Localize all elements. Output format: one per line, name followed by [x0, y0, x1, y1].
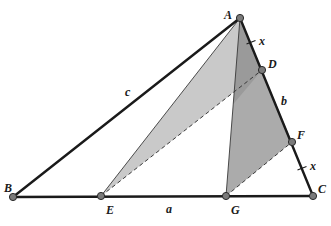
- side-BC: [13, 196, 313, 197]
- point-C: [309, 192, 316, 199]
- point-F: [288, 138, 295, 145]
- label-side-a: a: [166, 202, 172, 216]
- point-A: [236, 14, 243, 21]
- point-G: [222, 192, 229, 199]
- label-x-AD: x: [258, 34, 265, 48]
- point-E: [97, 192, 104, 199]
- point-D: [258, 66, 265, 73]
- label-F: F: [296, 128, 305, 142]
- label-G: G: [231, 203, 240, 217]
- segment-AE: [101, 18, 240, 196]
- label-A: A: [223, 8, 232, 22]
- label-B: B: [3, 181, 12, 195]
- label-C: C: [318, 182, 327, 196]
- label-E: E: [105, 203, 114, 217]
- label-side-c: c: [125, 85, 131, 99]
- triangle-diagram: A B C D E F G a b c x x: [0, 0, 331, 226]
- label-D: D: [267, 57, 277, 71]
- label-x-FC: x: [309, 159, 316, 173]
- label-side-b: b: [281, 94, 287, 108]
